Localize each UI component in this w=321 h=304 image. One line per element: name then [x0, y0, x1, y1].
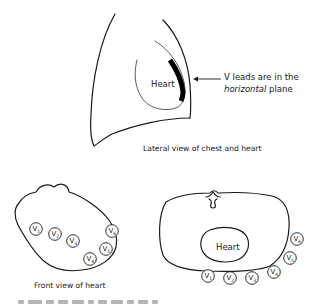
lateral-chest-outline-left — [91, 14, 190, 146]
footer-cutoff-text — [18, 300, 158, 304]
front-lead-group: V1V2V3V4V5V6 — [30, 223, 119, 266]
front-lead-v2: V2 — [49, 228, 62, 241]
ecg-chest-lead-diagram: Heart V leads are in the horizontal plan… — [0, 0, 321, 304]
front-view-caption: Front view of heart — [34, 281, 106, 290]
lateral-heart-label: Heart — [151, 79, 175, 89]
horizontal-lead-v5: V5 — [284, 252, 297, 265]
horizontal-lead-v6: V6 — [291, 233, 304, 246]
annotation-arrow — [193, 77, 221, 82]
horizontal-view: Heart V1V2V3V4V5V6 — [160, 191, 304, 285]
horizontal-lead-v3: V3 — [246, 272, 259, 285]
horizontal-body-outline — [160, 191, 290, 272]
front-lead-v3: V3 — [67, 235, 80, 248]
annotation-line-1: V leads are in the — [224, 72, 299, 82]
horizontal-lead-v1: V1 — [202, 270, 215, 283]
front-view: V1V2V3V4V5V6 Front view of heart — [15, 184, 118, 290]
horizontal-lead-v2: V2 — [224, 272, 237, 285]
annotation-rest: plane — [266, 84, 292, 94]
front-lead-v6: V6 — [106, 225, 119, 238]
lateral-view: Heart V leads are in the horizontal plan… — [91, 14, 299, 153]
front-lead-v5: V5 — [100, 243, 113, 256]
horizontal-lead-v4: V4 — [268, 266, 281, 279]
spine-icon — [206, 192, 220, 208]
arrow-head-icon — [193, 77, 198, 82]
front-lead-v4: V4 — [84, 253, 97, 266]
horizontal-heart-label: Heart — [216, 242, 240, 252]
annotation-italic-word: horizontal — [224, 84, 267, 94]
front-lead-v1: V1 — [30, 223, 43, 236]
horizontal-lead-group: V1V2V3V4V5V6 — [202, 233, 304, 285]
annotation-line-2: horizontal plane — [224, 84, 293, 94]
lateral-view-caption: Lateral view of chest and heart — [143, 144, 261, 153]
